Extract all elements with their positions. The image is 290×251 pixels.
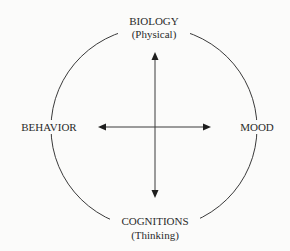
cognitive-model-diagram: BIOLOGY (Physical) BEHAVIOR MOOD COGNITI…	[0, 0, 290, 251]
node-left-label: BEHAVIOR	[21, 121, 77, 133]
arrow-up-icon	[152, 52, 159, 60]
arrow-right-icon	[203, 124, 211, 131]
arrow-down-icon	[152, 190, 159, 198]
arrow-left-icon	[98, 124, 106, 131]
node-top-label: BIOLOGY	[129, 15, 179, 27]
node-bottom-label: COGNITIONS	[121, 215, 188, 227]
node-right-label: MOOD	[240, 121, 274, 133]
node-bottom-sublabel: (Thinking)	[131, 229, 179, 242]
node-top-sublabel: (Physical)	[132, 28, 177, 41]
